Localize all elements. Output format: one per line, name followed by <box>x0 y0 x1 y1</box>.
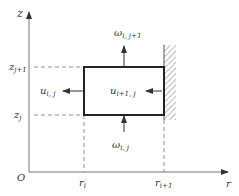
r-i-label: ri <box>79 177 86 190</box>
omega-bottom-label: ωi, j <box>112 139 130 152</box>
u-left-label: ui, j <box>40 85 56 98</box>
omega-top-label: ωi, j+1 <box>114 27 141 40</box>
z-j-label: zj <box>13 109 22 122</box>
z-axis-label: z <box>16 7 23 20</box>
wall-hatch <box>164 45 176 120</box>
r-i1-label: ri+1 <box>155 177 172 190</box>
u-right-label: ui+1, j <box>110 85 136 98</box>
cell-diagram: z r O zj+1 zj ri ri+1 ωi, j+1 ωi, j ui, … <box>0 0 239 196</box>
z-j1-label: zj+1 <box>8 61 27 74</box>
origin-label: O <box>17 172 25 183</box>
r-axis-label: r <box>226 178 232 189</box>
